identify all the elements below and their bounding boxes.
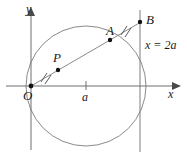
congruence-marks-AB (121, 26, 131, 37)
vertical-line-label: x = 2a (145, 39, 176, 51)
point-P-label: P (53, 51, 61, 64)
point-A-dot (108, 38, 112, 42)
geometry-figure: y x O a P A B x = 2a (0, 0, 187, 155)
x-tick-label-a: a (82, 91, 88, 103)
y-axis-label: y (26, 3, 31, 15)
x-axis-label: x (168, 88, 173, 100)
point-A-label: A (106, 24, 114, 37)
point-B-label: B (146, 13, 154, 26)
ray-OB (31, 22, 141, 86)
diagram-canvas (0, 0, 187, 155)
point-P-dot (56, 68, 60, 72)
x-axis-arrowhead (172, 82, 181, 90)
origin-label: O (23, 89, 32, 102)
point-B-dot (138, 20, 142, 24)
congruence-marks-OP (41, 73, 51, 84)
